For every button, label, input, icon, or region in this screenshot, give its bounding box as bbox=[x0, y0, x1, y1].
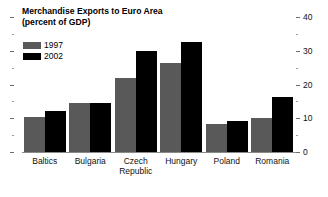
bar-1997-romania bbox=[251, 118, 272, 152]
y-tick-left-20 bbox=[10, 85, 14, 86]
x-axis-label-line: Republic bbox=[113, 166, 159, 176]
bar-2002-bulgaria bbox=[90, 103, 111, 152]
y-tick-left-0 bbox=[10, 152, 14, 153]
y-tick-label-10: 10 bbox=[303, 114, 312, 122]
bar-2002-baltics bbox=[45, 111, 66, 153]
y-tick-right-20 bbox=[296, 85, 300, 86]
y-tick-label-30: 30 bbox=[303, 47, 312, 55]
bar-1997-czech-republic bbox=[115, 78, 136, 152]
bar-group bbox=[204, 8, 250, 152]
bar-1997-baltics bbox=[24, 117, 45, 152]
y-tick-left-30 bbox=[10, 51, 14, 52]
chart-container: Merchandise Exports to Euro Area (percen… bbox=[0, 0, 328, 197]
bar-1997-hungary bbox=[160, 63, 181, 152]
y-tick-left-35 bbox=[12, 34, 14, 35]
y-tick-right-0 bbox=[296, 152, 300, 153]
y-tick-label-40: 40 bbox=[303, 13, 312, 21]
y-tick-label-0: 0 bbox=[303, 148, 308, 156]
x-axis-label: Baltics bbox=[22, 156, 68, 166]
bar-group bbox=[22, 8, 68, 152]
y-tick-right-5 bbox=[296, 135, 298, 136]
bar-2002-czech-republic bbox=[136, 51, 157, 152]
y-tick-left-10 bbox=[10, 118, 14, 119]
y-tick-right-25 bbox=[296, 68, 298, 69]
x-axis-label-line: Czech bbox=[113, 156, 159, 166]
x-axis-label: Hungary bbox=[159, 156, 205, 166]
x-axis-label-line: Bulgaria bbox=[68, 156, 114, 166]
x-axis-label-line: Poland bbox=[204, 156, 250, 166]
x-axis-label: Poland bbox=[204, 156, 250, 166]
bar-group bbox=[159, 8, 205, 152]
plot-area bbox=[22, 8, 295, 152]
bar-1997-bulgaria bbox=[69, 103, 90, 152]
y-tick-left-15 bbox=[12, 101, 14, 102]
x-axis-line bbox=[22, 152, 296, 153]
y-tick-right-30 bbox=[296, 51, 300, 52]
y-tick-right-15 bbox=[296, 101, 298, 102]
y-tick-right-35 bbox=[296, 34, 298, 35]
bar-group bbox=[250, 8, 296, 152]
bar-2002-romania bbox=[272, 97, 293, 152]
bar-group bbox=[68, 8, 114, 152]
y-tick-right-40 bbox=[296, 17, 300, 18]
x-axis-label: CzechRepublic bbox=[113, 156, 159, 176]
x-axis-label-line: Baltics bbox=[22, 156, 68, 166]
x-axis-label-line: Hungary bbox=[159, 156, 205, 166]
bar-group bbox=[113, 8, 159, 152]
bar-1997-poland bbox=[206, 124, 227, 152]
x-axis-label: Romania bbox=[250, 156, 296, 166]
x-axis-label: Bulgaria bbox=[68, 156, 114, 166]
y-tick-left-25 bbox=[12, 68, 14, 69]
y-tick-label-20: 20 bbox=[303, 81, 312, 89]
y-tick-right-10 bbox=[296, 118, 300, 119]
x-axis-label-line: Romania bbox=[250, 156, 296, 166]
bar-2002-poland bbox=[227, 121, 248, 152]
bar-2002-hungary bbox=[181, 42, 202, 152]
y-tick-left-40 bbox=[10, 17, 14, 18]
y-tick-left-5 bbox=[12, 135, 14, 136]
